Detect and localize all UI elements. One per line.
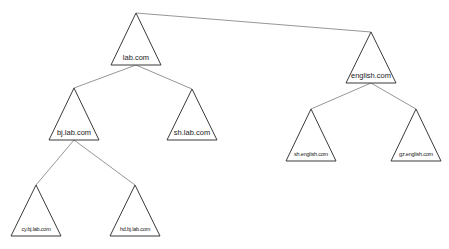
- edges-layer: [36, 13, 416, 185]
- edge-english-sh_english: [311, 83, 371, 109]
- domain-node-sh_english: sh.english.com: [286, 109, 336, 161]
- domain-node-lab: lab.com: [111, 13, 161, 65]
- domain-node-hd_bj: hd.bj.lab.com: [110, 185, 160, 236]
- edge-lab-english: [136, 13, 371, 32]
- domain-label: cy.bj.lab.com: [21, 226, 51, 232]
- domain-label: sh.english.com: [294, 151, 329, 157]
- edge-lab-sh: [136, 65, 192, 89]
- tree-canvas: lab.comenglish.combj.lab.comsh.lab.comsh…: [0, 0, 449, 249]
- edge-bj-cy_bj: [36, 140, 74, 185]
- edge-lab-bj: [74, 65, 136, 88]
- domain-label: gz.english.com: [399, 151, 434, 157]
- domain-tree-diagram: lab.comenglish.combj.lab.comsh.lab.comsh…: [0, 0, 449, 249]
- domain-node-bj: bj.lab.com: [49, 88, 99, 140]
- domain-node-cy_bj: cy.bj.lab.com: [11, 185, 61, 236]
- domain-label: lab.com: [123, 53, 149, 62]
- domain-node-english: english.com: [346, 32, 396, 83]
- domain-label: hd.bj.lab.com: [120, 226, 151, 232]
- domain-label: english.com: [351, 71, 391, 80]
- domain-node-sh: sh.lab.com: [167, 89, 217, 140]
- edge-bj-hd_bj: [74, 140, 135, 185]
- domain-node-gz_english: gz.english.com: [391, 109, 441, 161]
- edge-english-gz_english: [371, 83, 416, 109]
- nodes-layer: lab.comenglish.combj.lab.comsh.lab.comsh…: [11, 13, 441, 236]
- domain-label: bj.lab.com: [57, 128, 91, 137]
- domain-label: sh.lab.com: [174, 128, 210, 137]
